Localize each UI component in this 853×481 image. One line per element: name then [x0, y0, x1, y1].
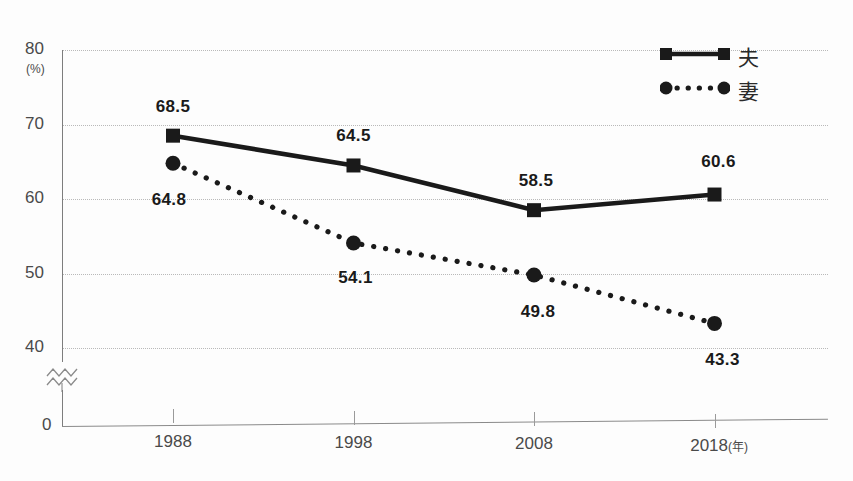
- data-point-marker-square[interactable]: [347, 158, 361, 172]
- legend-label: 夫: [738, 41, 759, 71]
- data-value-label: 49.8: [521, 302, 555, 322]
- data-value-label: 68.5: [156, 97, 190, 117]
- data-value-label: 60.6: [701, 152, 735, 172]
- legend: 夫妻: [660, 44, 790, 106]
- data-value-label: 58.5: [519, 171, 553, 191]
- data-value-label: 64.5: [336, 126, 370, 146]
- data-point-marker-circle[interactable]: [346, 235, 361, 250]
- data-point-marker-square[interactable]: [527, 203, 541, 217]
- legend-item-妻[interactable]: 妻: [660, 78, 790, 104]
- data-point-marker-square[interactable]: [708, 188, 722, 202]
- legend-item-夫[interactable]: 夫: [660, 44, 790, 70]
- data-value-label: 64.8: [152, 190, 186, 210]
- data-value-label: 54.1: [338, 268, 372, 288]
- legend-line-dotted-circle-icon: [660, 78, 730, 98]
- data-point-marker-square[interactable]: [166, 129, 180, 143]
- legend-label: 妻: [738, 75, 759, 105]
- data-point-marker-circle[interactable]: [166, 156, 181, 171]
- data-point-marker-circle[interactable]: [527, 267, 542, 282]
- line-chart-figure: 8070605040 (%) 0 1988199820082018(年) 68.…: [0, 0, 853, 481]
- data-point-marker-circle[interactable]: [707, 316, 722, 331]
- series-line-夫: [173, 136, 715, 211]
- data-value-label: 43.3: [705, 350, 739, 370]
- legend-line-solid-square-icon: [660, 44, 730, 64]
